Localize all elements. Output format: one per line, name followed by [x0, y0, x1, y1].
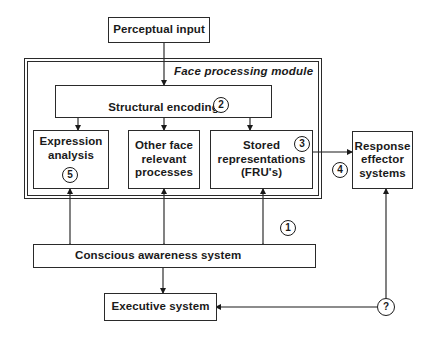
executive-system-label: Executive system	[111, 300, 209, 314]
response-effector-label-2: effector	[361, 153, 404, 167]
structural-encoding-box: Structural encoding	[55, 85, 272, 118]
conscious-awareness-label: Conscious awareness system	[75, 249, 241, 263]
badge-1: 1	[280, 220, 296, 236]
badge-3: 3	[294, 136, 310, 152]
expression-analysis-label-1: Expression	[40, 135, 103, 149]
response-effector-label-3: systems	[359, 167, 406, 181]
other-face-label-3: processes	[135, 166, 193, 180]
badge-question: ?	[377, 298, 395, 316]
conscious-awareness-box: Conscious awareness system	[33, 244, 316, 268]
other-face-label-2: relevant	[142, 153, 187, 167]
badge-2: 2	[213, 97, 229, 113]
stored-reps-label-2: representations	[218, 153, 306, 167]
badge-4: 4	[332, 162, 348, 178]
executive-system-box: Executive system	[104, 293, 217, 321]
other-face-processes-box: Other face relevant processes	[128, 130, 200, 189]
response-effector-label-1: Response	[355, 140, 411, 154]
response-effector-box: Response effector systems	[352, 131, 413, 189]
stored-reps-label-3: (FRU's)	[241, 166, 282, 180]
perceptual-input-box: Perceptual input	[108, 17, 210, 43]
expression-analysis-label-2: analysis	[48, 149, 94, 163]
other-face-label-1: Other face	[135, 139, 193, 153]
perceptual-input-label: Perceptual input	[113, 23, 205, 37]
structural-encoding-label: Structural encoding	[108, 101, 219, 115]
module-title: Face processing module	[174, 65, 313, 77]
badge-5: 5	[62, 167, 78, 183]
stored-reps-label-1: Stored	[243, 139, 280, 153]
